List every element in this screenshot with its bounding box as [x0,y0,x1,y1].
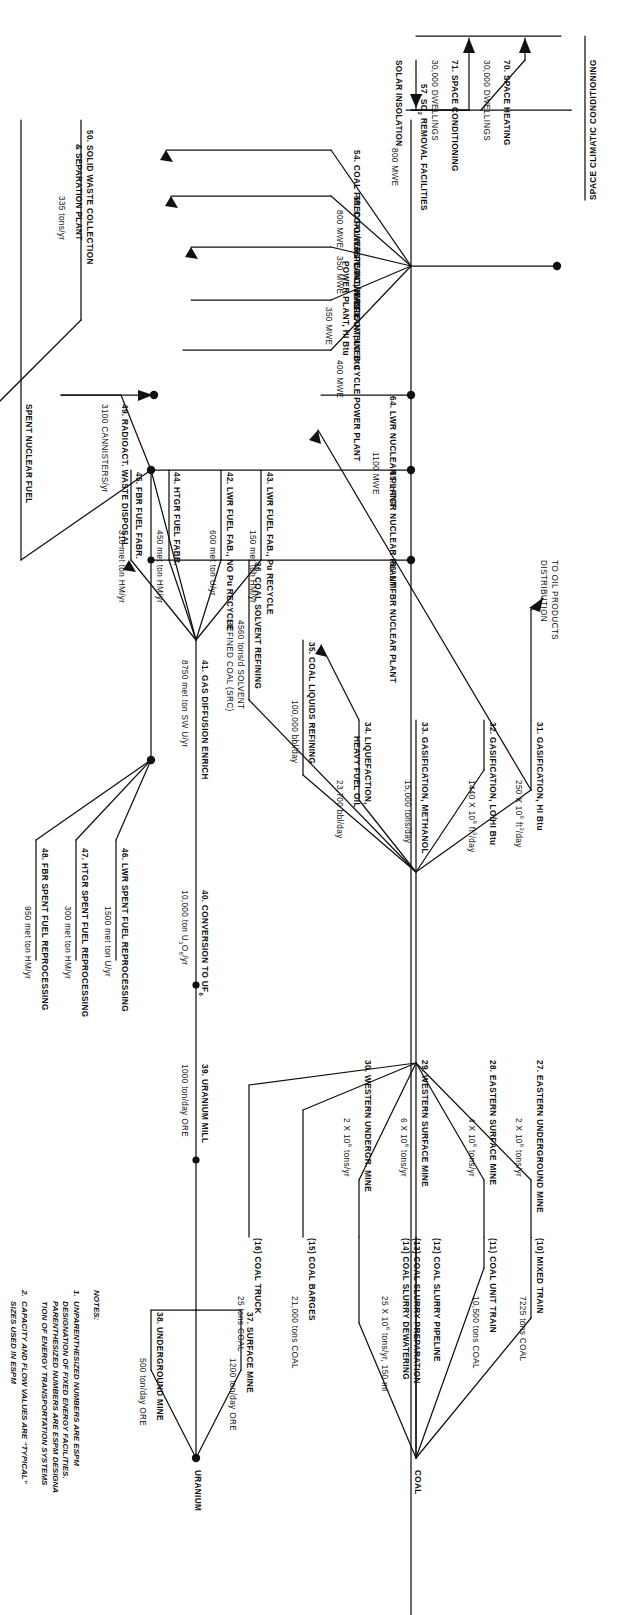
facility-50-value: 335 tons/yr [56,196,67,240]
facility-42-value: 600 met ton U/yr [207,530,218,596]
facility-37-name: 37. SURFACE MINE [244,1312,255,1393]
facility-30-name: 30. WESTERN UNDERGR. MINE [362,1060,373,1192]
solar-insolation-label: SOLAR INSOLATION [393,60,404,146]
facility-48-name: 48. FBR SPENT FUEL REPROCESSING [39,848,50,1011]
oil-distribution-label: TO OIL PRODUCTS [549,560,560,640]
facility-47-value: 300 met ton HM/yr [62,906,73,979]
transport-14-label: (14) COAL SLURRY DEWATERING [400,1238,411,1380]
facility-43-name: 43. LWR FUEL FAB., Pu RECYCLE [264,472,275,615]
facility-50-label: 50. SOLID WASTE COLLECTION [84,130,95,265]
transport-15-label: (15) COAL BARGES [306,1238,317,1321]
facility-28-value: 4 X 106 tons/yr [466,1118,480,1177]
facility-31-value: 250 X 106 ft3/day [513,780,527,848]
facility-29-value: 6 X 106 tons/yr [398,1118,412,1177]
facility-44-name: 44. HTGR FUEL FABR. [171,472,182,566]
notes-item-2: 2. CAPACITY AND FLOW VALUES ARE “TYPICAL… [8,1290,29,1484]
facility-27-name: 27. EASTERN UNDERGROUND MINE [534,1060,545,1213]
facility-43-value: 150 met ton HM/yr [247,530,258,603]
facility-49-value: 3100 CANNISTERS/yr [99,404,110,493]
facility-33-value: 15,000 tons/day [402,780,413,844]
facility-45-name: 45. FBR FUEL FABR. [133,472,144,559]
facility-46-value: 1500 met ton U/yr [102,906,113,977]
facility-54-value: 800 MWE [334,210,345,248]
facility-37-value: 1200 ton/day ORE [227,1358,238,1431]
facility-57-value: 800 MWE [389,148,400,186]
uranium-source-label: URANIUM [192,1470,203,1511]
facility-71-value: 30,000 DWELLINGS [429,60,440,141]
facility-39-name: 39. URANIUM MILL [199,1064,210,1143]
facility-35-label: 35. COAL LIQUIDS REFINING [306,642,317,764]
facility-50-label2: & SEPARATION PLANT [73,144,84,241]
facility-34-label2: HEAVY FUEL OIL [351,736,362,808]
transport-11-value: 10,500 tons COAL [470,1296,481,1369]
facility-36-value: 4560 tons/d SOLVENT [235,620,246,709]
facility-71-name: 71. SPACE CONDITIONING [449,60,460,172]
facility-32-value: 1440 X 106 ft3/day [466,780,480,853]
facility-49-name: 49. RADIOACT. WASTE DISPOSAL [119,404,130,548]
space-climatic-conditioning-label: SPACE CLIMATIC CONDITIONING [589,59,600,200]
facility-70-name: 70. SPACE HEATING [501,60,512,146]
facility-42-name: 42. LWR FUEL FAB., NO Pu RECYCLE [224,472,235,630]
diagram-canvas: 57. SO2 REMOVAL FACILITIES 800 MWE 54. C… [0,0,621,1615]
facility-32-label: 32. GASIFICATION, LO/HI Btu [487,722,498,845]
facility-29-name: 29. WESTERN SURFACE MINE [419,1060,430,1187]
facility-27-value: 2 X 106 tons/yr [513,1118,527,1177]
facility-39-value: 1000 ton/day ORE [179,1064,190,1137]
facility-44-value: 450 met ton HM/yr [154,530,165,603]
transport-10-value: 7225 tons COAL [517,1296,528,1361]
facility-35-value: 100,000 bbl/day [289,700,300,764]
facility-56-label2: POWER PLANT, HI Btu [340,261,351,356]
facility-36-value2: REFINED COAL (SRC) [224,620,235,712]
facility-47-name: 47. HTGR SPENT FUEL REPROCESSING [79,848,90,1017]
facility-34-value: 23,700 bbl/day [334,780,345,839]
facility-64-value: 1100 MWE [370,452,381,495]
facility-41-value: 8750 met ton SW U/yr [179,660,190,748]
transport-15-value: 21,000 tons COAL [289,1296,300,1369]
facility-30-value: 2 X 106 tons/yr [341,1118,355,1177]
notes-item-1: 1. UNPARENTHESIZED NUMBERS ARE ESPM DESI… [39,1290,81,1493]
transport-14-value: 25 X 106 tons/yr, 150 mi [379,1296,393,1392]
facility-56-value: 350 MWE [323,307,334,345]
facility-70-value: 30,000 DWELLINGS [481,60,492,141]
transport-10-label: (10) MIXED TRAIN [534,1238,545,1314]
transport-13-label: (13) COAL SLURRY PREPARATION [411,1238,422,1384]
facility-40-value: 10,000 ton U3O8/yr [176,890,189,965]
transport-12-label: (12) COAL SLURRY PIPELINE [431,1238,442,1362]
facility-46-name: 46. LWR SPENT FUEL REPROCESSING [119,848,130,1012]
transport-11-label: (11) COAL UNIT TRAIN [487,1238,498,1333]
facility-66-label: 66. LMFBR NUCLEAR PLANT [387,561,398,683]
coal-source-label: COAL [412,1470,423,1495]
facility-48-value: 950 met ton HM/yr [22,906,33,979]
facility-38-name: 38. UNDERGROUND MINE [154,1312,165,1421]
notes-heading: NOTES: [90,1290,101,1320]
spent-fuel-label: SPENT NUCLEAR FUEL [23,404,34,504]
facility-38-value: 500 ton/day ORE [137,1358,148,1426]
facility-31-label: 31. GASIFICATION, HI Btu [534,722,545,831]
facility-40-name: 40. CONVERSION TO UF6 [196,890,209,996]
facility-28-name: 28. EASTERN SURFACE MINE [487,1060,498,1185]
oil-distribution-label2: DISTRIBUTION [538,560,549,622]
facility-34-label: 34. LIQUEFACTION, [362,722,373,805]
facility-33-label: 33. GASIFICATION, METHANOL [419,722,430,854]
facility-61-value: 400 MWE [334,360,345,398]
facility-41-name: 41. GAS DIFFUSION ENRICH [199,660,210,780]
facility-61-label: 61. COMBINED CYCLE POWER PLANT [351,300,362,462]
transport-16-label: (16) COAL TRUCK [252,1238,263,1314]
facility-57-label: 57. SO2 REMOVAL FACILITIES [415,84,428,211]
